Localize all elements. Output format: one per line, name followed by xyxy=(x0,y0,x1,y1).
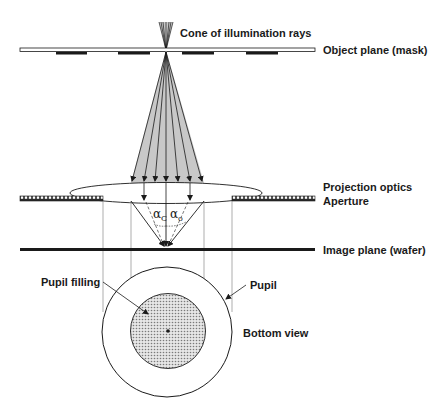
object-plane-mask xyxy=(20,48,315,55)
mask-feature xyxy=(246,52,278,55)
diffracted-ray-cone xyxy=(131,50,204,183)
alpha-c-symbol: α xyxy=(153,207,161,221)
pupil-leader xyxy=(226,285,246,299)
mask-feature xyxy=(118,52,150,55)
pupil-center-dot xyxy=(166,329,170,333)
alpha-c-subscript: C xyxy=(161,214,167,223)
label-bottom-view: Bottom view xyxy=(243,327,308,339)
label-projection-optics: Projection optics xyxy=(323,181,412,193)
label-alpha-o: αo xyxy=(170,208,183,225)
label-pupil-filling: Pupil filling xyxy=(41,276,100,288)
label-object-plane: Object plane (mask) xyxy=(323,44,428,56)
label-cone-of-illumination: Cone of illumination rays xyxy=(180,27,311,39)
diagram-canvas xyxy=(0,0,436,418)
alpha-o-subscript: o xyxy=(178,214,183,223)
mask-feature xyxy=(56,52,87,55)
converging-rays xyxy=(131,201,204,246)
lens-rays xyxy=(144,183,190,203)
label-image-plane: Image plane (wafer) xyxy=(323,244,426,256)
mask-feature xyxy=(182,52,214,55)
image-plane-wafer xyxy=(20,248,315,251)
illumination-cone-top xyxy=(159,22,173,50)
aperture-right xyxy=(232,196,315,201)
aperture-left xyxy=(20,196,103,201)
alpha-o-symbol: α xyxy=(170,207,178,221)
label-alpha-c: αC xyxy=(153,208,167,225)
label-pupil: Pupil xyxy=(250,279,277,291)
label-aperture: Aperture xyxy=(323,195,369,207)
